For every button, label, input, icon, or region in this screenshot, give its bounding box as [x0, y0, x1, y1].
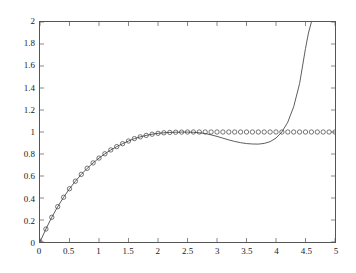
data-point	[321, 130, 325, 134]
data-point	[238, 130, 242, 134]
x-tick-label: 0.5	[63, 247, 74, 256]
data-point	[274, 130, 278, 134]
x-tick-label: 3.5	[241, 247, 252, 256]
data-point	[303, 130, 307, 134]
y-tick-label: 0	[31, 239, 36, 248]
x-tick-label: 5	[334, 247, 339, 256]
data-point	[227, 130, 231, 134]
x-tick-label: 1.5	[122, 247, 133, 256]
data-point	[268, 130, 272, 134]
x-axis-tick-labels: 00.511.522.533.544.55	[39, 247, 336, 259]
data-point	[297, 130, 301, 134]
y-tick-label: 0.2	[24, 216, 35, 225]
data-point	[197, 130, 201, 134]
x-tick-label: 2	[156, 247, 161, 256]
y-tick-label: 1.8	[24, 39, 35, 48]
data-point	[215, 130, 219, 134]
y-tick-label: 1.6	[24, 61, 35, 70]
data-point	[256, 130, 260, 134]
data-point	[262, 130, 266, 134]
data-point	[221, 130, 225, 134]
x-tick-label: 4.5	[301, 247, 312, 256]
chart-canvas	[40, 22, 335, 242]
series-line-solid-curve	[40, 22, 311, 242]
x-tick-label: 1	[96, 247, 101, 256]
data-point	[233, 130, 237, 134]
series-markers-circle-markers	[40, 130, 335, 242]
y-tick-label: 2	[31, 17, 36, 26]
y-tick-label: 0.8	[24, 150, 35, 159]
data-point	[292, 130, 296, 134]
figure: 00.20.40.60.811.21.41.61.82 00.511.522.5…	[0, 0, 356, 273]
data-point	[250, 130, 254, 134]
data-point	[286, 130, 290, 134]
data-point	[244, 130, 248, 134]
y-axis-tick-labels: 00.20.40.60.811.21.41.61.82	[0, 21, 35, 243]
data-point	[327, 130, 331, 134]
y-tick-label: 1.2	[24, 105, 35, 114]
data-point	[315, 130, 319, 134]
x-tick-label: 0	[37, 247, 42, 256]
data-series-group	[40, 22, 335, 242]
data-point	[209, 130, 213, 134]
data-point	[309, 130, 313, 134]
y-tick-label: 1.4	[24, 83, 35, 92]
y-tick-label: 0.6	[24, 172, 35, 181]
x-tick-label: 2.5	[182, 247, 193, 256]
y-tick-label: 1	[31, 128, 36, 137]
plot-area	[39, 21, 336, 243]
y-tick-label: 0.4	[24, 194, 35, 203]
x-tick-label: 4	[274, 247, 279, 256]
x-tick-label: 3	[215, 247, 220, 256]
